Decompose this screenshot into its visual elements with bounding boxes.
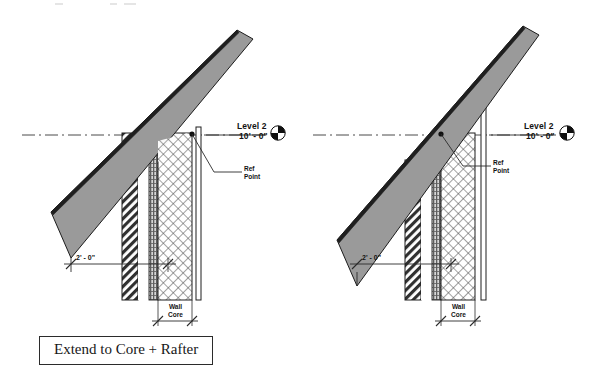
wall-core-label-right: Wall Core [443, 303, 474, 318]
wall-core-line-2: Core [443, 311, 474, 319]
level-tag-right: Level 2 10' - 0" [524, 122, 555, 141]
level-tag-left: Level 2 10' - 0" [237, 122, 268, 141]
offset-dimension-label-right: 2' - 0" [362, 254, 381, 261]
diagram-extend-to-core-rafter: Level 2 10' - 0" Ref Point 2' - 0" Wall … [0, 0, 295, 389]
wall-core-line-1: Wall [443, 303, 474, 311]
ref-point-line-1: Ref [493, 159, 509, 167]
wall-core-line-1: Wall [160, 303, 191, 311]
diagram-page: Level 2 10' - 0" Ref Point 2' - 0" Wall … [0, 0, 590, 389]
ref-point-line-2: Point [244, 173, 260, 181]
ref-point-line-2: Point [493, 167, 509, 175]
wall-core-line-2: Core [160, 311, 191, 319]
level-head-symbol [271, 126, 285, 140]
level-elevation: 10' - 0" [524, 132, 555, 142]
offset-dimension-label-left: 2' - 0" [76, 254, 95, 261]
level-head-symbol [560, 126, 574, 140]
ref-point-label-left: Ref Point [244, 165, 260, 180]
wall-core-label-left: Wall Core [160, 303, 191, 318]
section-drawing-right [295, 0, 590, 340]
caption-extend-to-core-rafter: Extend to Core + Rafter [39, 336, 213, 365]
wall-layer-core [158, 133, 192, 300]
wall-layer-interior-finish [481, 103, 486, 300]
diagram-extend-to-core-truss: Level 2 10' - 0" Ref Point 2' - 0" Wall … [295, 0, 590, 389]
wall-layer-interior-finish [196, 127, 201, 300]
level-elevation: 10' - 0" [237, 132, 268, 142]
ref-point-line-1: Ref [244, 165, 260, 173]
ref-point-label-right: Ref Point [493, 159, 509, 174]
